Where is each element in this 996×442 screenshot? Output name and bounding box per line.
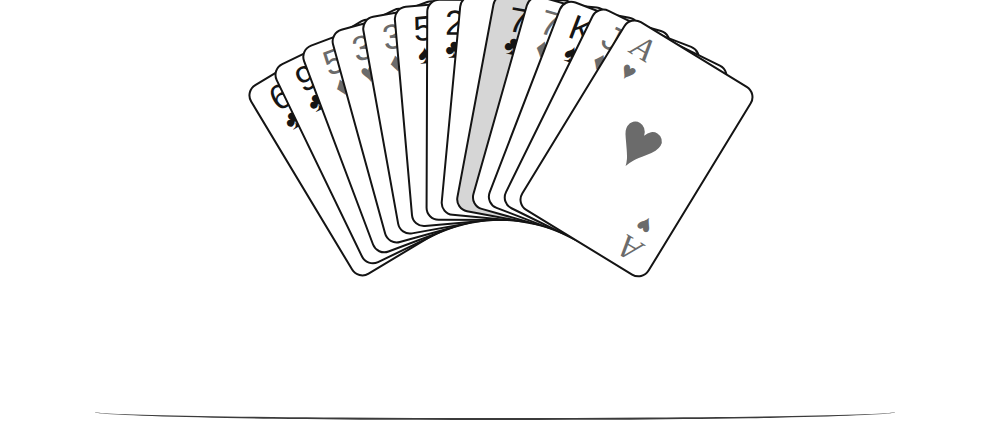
card-fan-scene: 6♣6♣9♣9♣5♦5♦3♥3♥3♦3♦5♠5♠2♣2♣JOKERJOKER7♣…: [0, 0, 996, 442]
card-index-bot: A♥: [607, 206, 665, 272]
card-index-top: A♥: [607, 25, 665, 91]
fan-base-shadow: [95, 404, 895, 420]
heart-large-pip-icon: ♥: [600, 97, 680, 188]
